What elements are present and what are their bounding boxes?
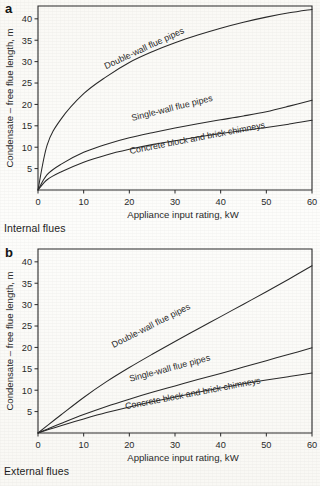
chart-panel-a: a 5101520253035400102030405060Appliance …: [0, 0, 320, 243]
svg-text:10: 10: [79, 440, 89, 450]
svg-text:0: 0: [35, 440, 40, 450]
curve-label: Double-wall flue pipes: [103, 25, 186, 71]
svg-text:10: 10: [22, 143, 32, 153]
svg-text:Condensate – free flue length,: Condensate – free flue length, m: [4, 28, 15, 167]
svg-text:0: 0: [35, 197, 40, 207]
svg-text:30: 30: [22, 300, 32, 310]
svg-text:40: 40: [216, 197, 226, 207]
curve-label: Single-wall flue pipes: [130, 93, 214, 123]
svg-text:5: 5: [27, 407, 32, 417]
svg-text:35: 35: [22, 279, 32, 289]
svg-text:50: 50: [261, 440, 271, 450]
chart-a-plot: 5101520253035400102030405060Appliance in…: [0, 0, 320, 243]
svg-text:10: 10: [22, 386, 32, 396]
svg-text:30: 30: [22, 57, 32, 67]
svg-text:Appliance input rating, kW: Appliance input rating, kW: [127, 209, 239, 220]
svg-text:20: 20: [124, 440, 134, 450]
svg-text:40: 40: [216, 440, 226, 450]
svg-text:50: 50: [261, 197, 271, 207]
curve-3: [38, 120, 312, 190]
chart-panel-b: b 5101520253035400102030405060Appliance …: [0, 243, 320, 486]
figure-page: a 5101520253035400102030405060Appliance …: [0, 0, 320, 486]
svg-text:60: 60: [307, 197, 317, 207]
svg-text:5: 5: [27, 164, 32, 174]
svg-text:40: 40: [22, 14, 32, 24]
chart-b-plot: 5101520253035400102030405060Appliance in…: [0, 243, 320, 486]
svg-text:30: 30: [170, 440, 180, 450]
svg-text:Condensate – free flue length,: Condensate – free flue length, m: [4, 271, 15, 410]
svg-text:20: 20: [22, 343, 32, 353]
svg-text:30: 30: [170, 197, 180, 207]
svg-text:Appliance input rating, kW: Appliance input rating, kW: [127, 452, 239, 463]
curve-label: Double-wall flue pipes: [110, 301, 192, 350]
curve-3: [38, 373, 312, 433]
svg-text:40: 40: [22, 257, 32, 267]
svg-text:25: 25: [22, 321, 32, 331]
svg-text:15: 15: [22, 364, 32, 374]
svg-text:10: 10: [79, 197, 89, 207]
curve-1: [38, 266, 312, 433]
svg-text:20: 20: [124, 197, 134, 207]
svg-text:20: 20: [22, 100, 32, 110]
svg-text:15: 15: [22, 121, 32, 131]
svg-text:60: 60: [307, 440, 317, 450]
svg-text:35: 35: [22, 36, 32, 46]
svg-text:25: 25: [22, 78, 32, 88]
curve-label: Concrete block and brick chimneys: [129, 120, 267, 156]
panel-a-caption: Internal flues: [4, 222, 66, 234]
panel-b-caption: External flues: [4, 465, 69, 477]
